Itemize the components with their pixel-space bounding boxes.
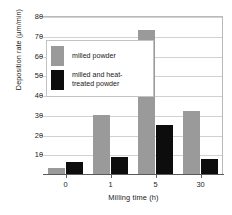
bar	[201, 159, 218, 174]
x-tick-mark	[66, 175, 67, 178]
y-tick-label: 40	[13, 91, 43, 100]
x-tick-label: 0	[63, 180, 67, 189]
y-tick-label: 50	[13, 71, 43, 80]
bar	[66, 162, 83, 174]
bar	[156, 125, 173, 174]
bar	[183, 111, 200, 174]
legend-label: milled powder	[72, 52, 116, 61]
x-tick-mark	[156, 175, 157, 178]
x-tick-mark	[201, 175, 202, 178]
x-axis-line	[43, 174, 224, 175]
legend-item-milled-powder: milled powder	[51, 46, 116, 66]
x-tick-label: 30	[196, 180, 204, 189]
black-swatch	[51, 70, 64, 90]
bar	[111, 157, 128, 174]
bar	[48, 168, 65, 174]
x-tick-label: 5	[153, 180, 157, 189]
y-axis-tick-container: 1020304050607080	[0, 0, 43, 215]
x-tick-mark	[111, 175, 112, 178]
x-tick-label: 1	[108, 180, 112, 189]
y-tick-label: 60	[13, 51, 43, 60]
legend-item-heat-treated-powder: milled and heat- treated powder	[51, 70, 122, 90]
bar-group	[183, 17, 218, 174]
legend-label: milled and heat- treated powder	[72, 71, 122, 88]
y-tick-label: 10	[13, 150, 43, 159]
bar	[93, 115, 110, 174]
y-tick-label: 20	[13, 130, 43, 139]
legend: milled powder milled and heat- treated p…	[46, 40, 154, 97]
gray-swatch	[51, 46, 64, 66]
y-tick-label: 70	[13, 31, 43, 40]
bar-chart-figure: Deposition rate (µm/min) 102030405060708…	[0, 0, 232, 215]
y-tick-label: 30	[13, 110, 43, 119]
y-tick-label: 80	[13, 12, 43, 21]
x-axis-title: Milling time (h)	[43, 193, 224, 202]
